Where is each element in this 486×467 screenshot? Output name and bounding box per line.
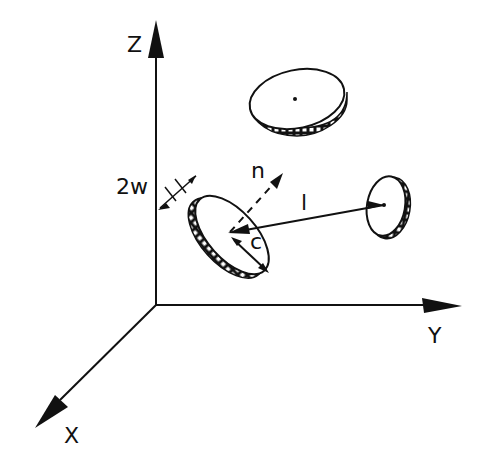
y-axis-arrowhead-icon: [422, 298, 462, 313]
normal-arrowhead-icon: [270, 173, 283, 189]
z-axis-label: Z: [127, 32, 142, 57]
left-disc: [175, 183, 282, 291]
normal-label: n: [251, 158, 265, 183]
x-axis-label: X: [64, 423, 79, 448]
top-disc: [244, 61, 350, 138]
y-axis-label: Y: [427, 323, 442, 348]
radius-label: c: [250, 229, 262, 254]
diagram-canvas: Z Y X n l: [0, 0, 486, 467]
x-axis-line: [60, 305, 156, 400]
top-disc-center-dot: [293, 97, 297, 101]
separation-label: l: [301, 190, 307, 215]
thickness-label: 2w: [116, 174, 148, 199]
z-axis-arrowhead-icon: [148, 20, 164, 58]
